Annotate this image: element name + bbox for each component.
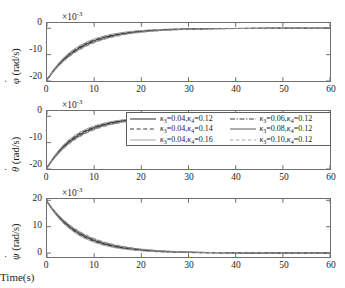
series-line xyxy=(47,28,330,80)
x-tick-label: 40 xyxy=(225,172,247,182)
x-tick-label: 10 xyxy=(83,172,105,182)
curves-phi-dot xyxy=(47,23,330,81)
x-tick-label: 40 xyxy=(225,260,247,270)
y-tick-label: 20 xyxy=(18,193,42,203)
x-tick-label: 50 xyxy=(273,172,295,182)
y-tick-label: -20 xyxy=(18,71,42,81)
figure-canvas: ×10-3 φ (rad/s) 0 -10 -20 0 10 20 30 40 … xyxy=(0,0,345,288)
x-tick-label: 50 xyxy=(273,84,295,94)
curves-psi-dot xyxy=(47,199,330,257)
x-tick-label: 10 xyxy=(83,84,105,94)
x-tick-label: 30 xyxy=(178,84,200,94)
x-tick-label: 20 xyxy=(130,172,152,182)
exponent-label-3: ×10-3 xyxy=(62,186,83,198)
legend-label: κ3=0.04,κ4=0.12 xyxy=(160,114,213,124)
legend-box: κ3=0.04,κ4=0.12 κ3=0.06,κ4=0.12 κ3=0.04,… xyxy=(126,112,331,146)
y-tick-label: 0 xyxy=(18,17,42,27)
series-line xyxy=(47,201,330,253)
plot-area-psi-dot xyxy=(46,198,331,258)
series-line xyxy=(47,201,330,253)
legend-label: κ3=0.04,κ4=0.14 xyxy=(160,124,213,134)
x-tick-label: 40 xyxy=(225,84,247,94)
x-tick-label: 20 xyxy=(130,260,152,270)
legend-line-solid xyxy=(229,125,257,133)
x-tick-label: 0 xyxy=(36,84,56,94)
x-tick-label: 0 xyxy=(36,172,56,182)
series-line xyxy=(47,28,330,80)
legend-label: κ3=0.04,κ4=0.16 xyxy=(160,135,213,145)
series-line xyxy=(47,28,330,80)
plot-area-phi-dot xyxy=(46,22,331,82)
legend-item[interactable]: κ3=0.04,κ4=0.12 xyxy=(129,113,229,124)
legend-item[interactable]: κ3=0.04,κ4=0.16 xyxy=(129,134,229,145)
series-line xyxy=(47,201,330,253)
x-tick-label: 30 xyxy=(178,172,200,182)
legend-item[interactable]: κ3=0.08,κ4=0.12 xyxy=(229,124,329,135)
legend-label: κ3=0.10,κ4=0.12 xyxy=(260,135,313,145)
legend-label: κ3=0.06,κ4=0.12 xyxy=(260,114,313,124)
x-tick-label: 30 xyxy=(178,260,200,270)
exponent-label-1: ×10-3 xyxy=(62,10,83,22)
y-tick-label: 10 xyxy=(18,220,42,230)
x-tick-label: 50 xyxy=(273,260,295,270)
legend-item[interactable]: κ3=0.04,κ4=0.14 xyxy=(129,124,229,135)
series-line xyxy=(47,201,330,253)
legend-item[interactable]: κ3=0.06,κ4=0.12 xyxy=(229,113,329,124)
y-tick-label: -10 xyxy=(18,44,42,54)
series-line xyxy=(47,201,330,253)
x-tick-label: 20 xyxy=(130,84,152,94)
exponent-label-2: ×10-3 xyxy=(62,98,83,110)
legend-line-dashdot xyxy=(229,115,257,123)
y-tick-label: 0 xyxy=(18,247,42,257)
x-tick-label: 0 xyxy=(36,260,56,270)
series-line xyxy=(47,28,330,80)
legend-label: κ3=0.08,κ4=0.12 xyxy=(260,124,313,134)
legend-line-solid-light xyxy=(129,136,157,144)
x-tick-label: 60 xyxy=(320,84,342,94)
x-tick-label: 10 xyxy=(83,260,105,270)
series-line xyxy=(47,28,330,80)
series-line xyxy=(47,201,330,253)
x-tick-label: 60 xyxy=(320,260,342,270)
x-tick-label: 60 xyxy=(320,172,342,182)
legend-line-solid xyxy=(129,115,157,123)
legend-line-dashed xyxy=(129,125,157,133)
y-tick-label: -10 xyxy=(18,132,42,142)
series-line xyxy=(47,28,330,80)
y-tick-label: -20 xyxy=(18,159,42,169)
legend-line-dashed-light xyxy=(229,136,257,144)
legend-item[interactable]: κ3=0.10,κ4=0.12 xyxy=(229,134,329,145)
y-tick-label: 0 xyxy=(18,105,42,115)
